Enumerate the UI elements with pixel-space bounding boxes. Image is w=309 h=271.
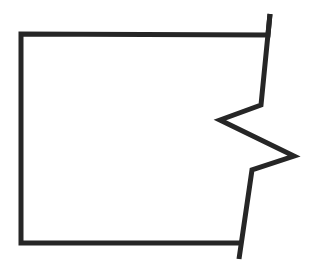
figure-background — [0, 0, 309, 271]
figure-canvas — [0, 0, 309, 271]
line-drawing-svg — [0, 0, 309, 271]
